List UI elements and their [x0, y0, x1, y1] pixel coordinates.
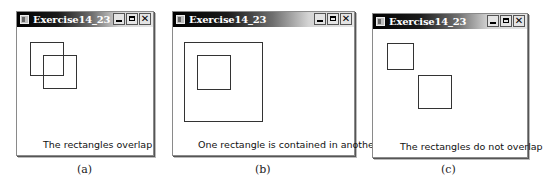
status-message: One rectangle is contained in another	[198, 139, 378, 150]
window-title: Exercise14_23	[189, 14, 266, 25]
minimize-icon[interactable]	[487, 15, 499, 27]
window-title: Exercise14_23	[389, 16, 466, 27]
app-icon[interactable]	[20, 15, 29, 24]
caption-a: (a)	[77, 163, 92, 176]
status-message: The rectangles overlap	[43, 139, 152, 150]
maximize-icon[interactable]	[327, 13, 339, 25]
close-icon[interactable]: ✕	[139, 13, 151, 25]
caption-b: (b)	[255, 163, 271, 176]
maximize-icon[interactable]	[500, 15, 512, 27]
minimize-icon[interactable]	[314, 13, 326, 25]
window-title: Exercise14_23	[33, 14, 110, 25]
window-a: Exercise14_23 ✕	[16, 11, 154, 156]
window-controls: ✕	[113, 13, 151, 25]
rectangle-1	[387, 43, 414, 70]
rectangle-2	[418, 75, 452, 109]
title-bar[interactable]: Exercise14_23 ✕	[17, 12, 153, 27]
title-bar[interactable]: Exercise14_23 ✕	[373, 14, 527, 29]
title-bar[interactable]: Exercise14_23 ✕	[173, 12, 354, 27]
close-icon[interactable]: ✕	[513, 15, 525, 27]
inner-rectangle	[197, 55, 231, 90]
rectangle-2	[43, 55, 77, 89]
maximize-icon[interactable]	[126, 13, 138, 25]
minimize-icon[interactable]	[113, 13, 125, 25]
app-icon[interactable]	[376, 17, 385, 26]
status-message: The rectangles do not overlap	[400, 141, 543, 152]
window-controls: ✕	[487, 15, 525, 27]
app-icon[interactable]	[176, 15, 185, 24]
close-icon[interactable]: ✕	[340, 13, 352, 25]
caption-c: (c)	[441, 163, 456, 176]
window-controls: ✕	[314, 13, 352, 25]
